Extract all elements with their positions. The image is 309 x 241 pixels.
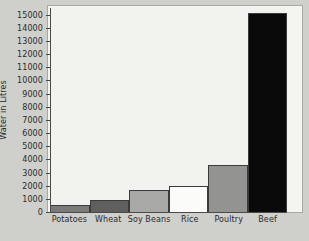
y-tick-label: 3000 bbox=[22, 168, 43, 177]
x-tick-label: Poultry bbox=[209, 215, 248, 224]
y-tick-label: 4000 bbox=[22, 155, 43, 164]
y-tick-label: 1000 bbox=[22, 194, 43, 203]
bar-poultry bbox=[208, 165, 248, 212]
y-tick-label: 8000 bbox=[22, 102, 43, 111]
y-tick-label: 10000 bbox=[17, 76, 43, 85]
x-tick-label: Beef bbox=[248, 215, 287, 224]
y-tick-label: 7000 bbox=[22, 115, 43, 124]
x-tick-label: Potatoes bbox=[50, 215, 89, 224]
y-tick-label: 11000 bbox=[17, 63, 43, 72]
x-tick-label: Soy Beans bbox=[128, 215, 171, 224]
bar-beef bbox=[248, 13, 288, 212]
x-axis-line bbox=[50, 212, 287, 213]
y-tick-label: 2000 bbox=[22, 181, 43, 190]
bar-soy-beans bbox=[129, 190, 169, 212]
y-tick-label: 13000 bbox=[17, 36, 43, 45]
y-tick-label: 12000 bbox=[17, 50, 43, 59]
y-tick-label: 15000 bbox=[17, 10, 43, 19]
x-tick-label: Rice bbox=[170, 215, 209, 224]
bar-wheat bbox=[90, 200, 130, 213]
bar-chart: Water in Litres 010002000300040005000600… bbox=[0, 0, 309, 241]
y-tick-label: 5000 bbox=[22, 142, 43, 151]
y-tick-label: 14000 bbox=[17, 23, 43, 32]
bar-rice bbox=[169, 186, 209, 212]
y-tick-label: 6000 bbox=[22, 129, 43, 138]
y-axis-line bbox=[50, 8, 51, 212]
y-tick-label: 9000 bbox=[22, 89, 43, 98]
x-tick-label: Wheat bbox=[89, 215, 128, 224]
y-tick-label: 0 bbox=[38, 208, 43, 217]
bar-potatoes bbox=[50, 205, 90, 212]
y-axis-ticks: 0100020003000400050006000700080009000100… bbox=[0, 8, 50, 212]
bar-series bbox=[50, 8, 287, 212]
plot-area bbox=[50, 8, 287, 212]
x-axis-labels: PotatoesWheatSoy BeansRicePoultryBeef bbox=[50, 215, 287, 224]
